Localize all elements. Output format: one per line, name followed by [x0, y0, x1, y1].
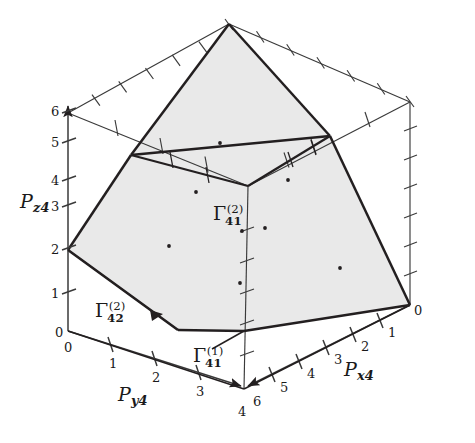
z-tick-label-6: 6 — [51, 105, 59, 118]
x-axis-name-base: P — [344, 358, 357, 380]
gamma-41-2-subscript: 41 — [225, 214, 242, 228]
region-label-gamma-42-2: Γ(2)42 — [95, 301, 124, 325]
y-tick-label-3: 3 — [196, 385, 204, 398]
region-label-gamma-41-2: Γ(2)41 — [213, 204, 242, 228]
y-axis-name-sub: y4 — [131, 393, 147, 408]
x-tick-label-5: 5 — [280, 381, 288, 394]
y-axis-name-base: P — [118, 383, 131, 405]
z-tick-label-0: 0 — [55, 326, 63, 339]
z-tick-label-1: 1 — [51, 287, 59, 300]
gamma-42-2-subscript: 42 — [107, 311, 124, 325]
z-tick-label-4: 4 — [51, 174, 59, 187]
y-tick-label-0: 0 — [64, 341, 72, 354]
y-axis-name: Py4 — [118, 385, 148, 408]
y-tick-label-2: 2 — [152, 371, 160, 384]
region-label-gamma-41-1: Γ(1)41 — [193, 346, 222, 370]
z-axis — [62, 106, 76, 331]
gamma-41-1-subscript: 41 — [205, 356, 222, 370]
x-tick-label-4: 4 — [307, 367, 315, 380]
z-axis-name: Pz4 — [20, 192, 49, 215]
shaded-region — [68, 24, 410, 331]
z-tick-label-2: 2 — [51, 243, 59, 256]
x-tick-label-1: 1 — [388, 326, 396, 339]
x-axis-name-sub: x4 — [357, 368, 374, 383]
y-tick-label-1: 1 — [109, 357, 117, 370]
x-tick-label-6: 6 — [253, 395, 261, 408]
x-tick-label-0: 0 — [414, 304, 422, 317]
figure-root: 0 1 2 3 4 5 6 0 1 2 3 4 0 1 2 3 4 5 6 Pz… — [0, 0, 475, 443]
x-axis-name: Px4 — [344, 360, 374, 383]
z-tick-label-5: 5 — [51, 136, 59, 149]
z-tick-label-3: 3 — [51, 200, 59, 213]
y-tick-label-4: 4 — [238, 405, 246, 418]
z-axis-name-sub: z4 — [33, 200, 49, 215]
x-tick-label-2: 2 — [361, 340, 369, 353]
z-axis-name-base: P — [20, 190, 33, 212]
x-tick-label-3: 3 — [334, 353, 342, 366]
